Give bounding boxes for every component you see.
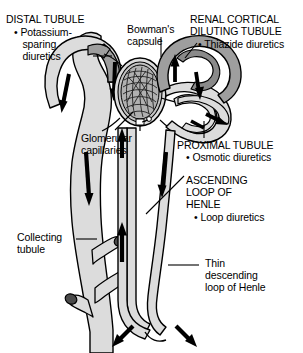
- bowmans-capsule-label-line2: capsule: [127, 36, 163, 48]
- ascending-loop-label-line2: LOOP OF: [186, 187, 232, 199]
- renal-cortical-diluting-tubule-label-line1: RENAL CORTICAL: [190, 14, 279, 26]
- thin-descending-loop-label-line3: loop of Henle: [205, 282, 266, 294]
- renal-cortical-diluting-tubule-label-line2: DILUTING TUBULE: [190, 26, 282, 38]
- proximal-tubule-label-heading: PROXIMAL TUBULE: [177, 140, 274, 152]
- ascending-loop-label-line3: HENLE: [186, 199, 221, 211]
- thin-descending-loop-label-line2: descending: [205, 270, 258, 282]
- proximal-tubule-label-bullet: • Osmotic diuretics: [186, 152, 271, 164]
- distal-tubule-label-bullet-line3: diuretics: [14, 51, 61, 63]
- nephron-diagram-page: DISTAL TUBULE • Potassium- sparing diure…: [0, 0, 303, 353]
- collecting-tubule-label-line1: Collecting: [17, 232, 62, 244]
- renal-cortical-diluting-tubule-label-bullet: • Thiazide diuretics: [198, 39, 284, 51]
- glomerular-capillaries-shape: [121, 65, 159, 119]
- thin-descending-loop-label-line1: Thin: [205, 258, 225, 270]
- distal-tubule-label-bullet-line1: • Potassium-: [14, 27, 72, 39]
- distal-tubule-label-bullet-line2: sparing: [14, 39, 56, 51]
- distal-tubule-label-heading: DISTAL TUBULE: [6, 14, 84, 26]
- bowmans-capsule-label-line1: Bowman's: [127, 24, 174, 36]
- ascending-loop-label-bullet: • Loop diuretics: [194, 212, 264, 224]
- glomerular-capillaries-label-line1: Glomerular: [81, 133, 132, 145]
- thin-descending-limb-shape: [148, 130, 176, 335]
- collecting-tubule-label-line2: tubule: [17, 244, 45, 256]
- ascending-loop-label-line1: ASCENDING: [186, 175, 248, 187]
- glomerular-capillaries-label-line2: capillaries: [81, 145, 127, 157]
